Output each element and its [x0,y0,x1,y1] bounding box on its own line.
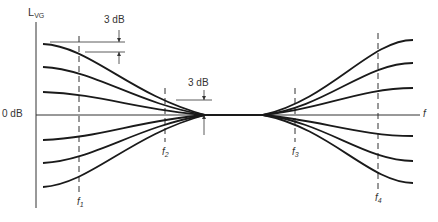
upper-3db-label: 3 dB [104,14,125,25]
f4-label: f4 [375,192,382,204]
f1-label: f1 [77,196,84,208]
f1-label-sub: 1 [80,201,84,208]
f2-label: f2 [162,146,169,158]
right-curves [263,40,413,183]
f3-label-sub: 3 [295,151,299,158]
center-3db-label: 3 dB [188,77,209,88]
arrowhead-icon [117,38,121,42]
f4-label-sub: 4 [378,197,382,204]
arrowhead-icon [202,96,206,100]
zero-db-label: 0 dB [2,108,23,119]
y-axis-label-subscript: VG [34,12,44,19]
y-axis-label: LVG [28,6,44,19]
f2-label-sub: 2 [165,151,169,158]
f3-label: f3 [292,146,299,158]
arrowhead-icon [117,52,121,56]
x-axis-label: f [423,108,426,119]
equalizer-response-diagram: LVG 0 dB f 3 dB 3 dB f1 f2 f3 f4 [0,0,438,222]
diagram-graphics [0,0,438,222]
